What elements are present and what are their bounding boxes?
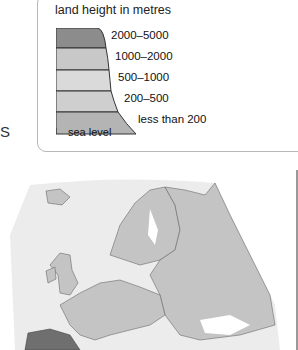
page-edge-line	[296, 170, 298, 350]
legend-band-less-than-200: less than 200	[138, 113, 206, 125]
cut-off-text: S	[0, 123, 10, 140]
height-legend: land height in metres 2000–5000 1000–200…	[37, 0, 298, 152]
legend-band-200-500: 200–500	[124, 92, 169, 104]
legend-title: land height in metres	[55, 3, 171, 17]
legend-band-500-1000: 500–1000	[118, 71, 169, 83]
legend-band-2000-5000: 2000–5000	[111, 29, 169, 41]
europe-relief-map	[0, 175, 298, 350]
sea-level-label: sea level	[68, 126, 111, 138]
legend-band-1000-2000: 1000–2000	[115, 50, 173, 62]
